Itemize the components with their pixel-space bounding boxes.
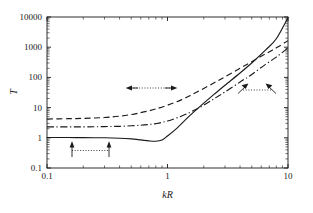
- x-minor-ticks: [83, 17, 282, 168]
- data-curves: [47, 18, 288, 142]
- annotation-lower-left: [70, 141, 112, 157]
- plot-frame: [47, 17, 288, 168]
- annotations: [70, 84, 276, 157]
- xtick-label-0.1: 0.1: [41, 172, 52, 181]
- y-axis-title: T: [9, 89, 19, 95]
- annotation-right-arrow2-head: [266, 84, 273, 90]
- annotation-middle-arrow2-head: [171, 86, 177, 91]
- y-major-ticks: [47, 17, 288, 168]
- annotation-lower-left-arrow2-head: [107, 141, 112, 147]
- ytick-label-10000: 10000: [4, 13, 42, 22]
- figure-container: 10000 1000 100 10 1 0.1 0.1 1 10 T kR: [0, 0, 313, 213]
- annotation-lower-left-arrow1-head: [70, 141, 75, 147]
- ytick-label-1: 1: [4, 133, 42, 142]
- ytick-label-0.1: 0.1: [4, 164, 42, 173]
- annotation-middle: [126, 86, 178, 91]
- ytick-label-10: 10: [4, 103, 42, 112]
- x-major-ticks: [47, 17, 288, 168]
- ytick-label-1000: 1000: [4, 43, 42, 52]
- annotation-middle-arrow1-head: [126, 86, 132, 91]
- chart-plot-area: [0, 0, 313, 213]
- x-axis-title: kR: [162, 190, 173, 200]
- ytick-label-100: 100: [4, 73, 42, 82]
- xtick-label-10: 10: [284, 172, 293, 181]
- series-dash-dot-line: [47, 48, 288, 127]
- annotation-right-arrow1-head: [242, 84, 249, 90]
- series-dashed-line: [47, 41, 288, 119]
- annotation-right: [238, 84, 276, 94]
- xtick-label-1: 1: [165, 172, 170, 181]
- series-solid-line: [47, 18, 288, 142]
